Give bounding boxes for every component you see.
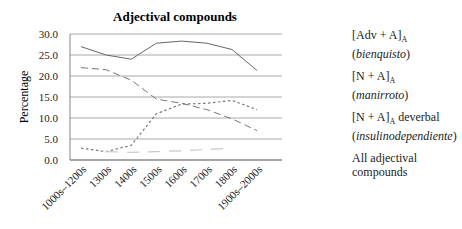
x-tick-label: 1700s (187, 163, 214, 190)
x-axis-ticks: 1000s–1200s1300s1400s1500s1600s1700s1800… (39, 163, 265, 213)
legend-item-n-a: [N + A]A (manirroto) (300, 69, 462, 102)
y-tick-label: 0.0 (44, 154, 58, 166)
y-tick-label: 10.0 (39, 112, 59, 124)
y-tick-label: 5.0 (44, 133, 58, 145)
x-tick-label: 1300s (86, 163, 113, 190)
x-tick-label: 1500s (137, 163, 164, 190)
chart-title: Adjectival compounds (113, 9, 237, 24)
y-tick-label: 20.0 (39, 70, 59, 82)
line-chart: Adjectival compounds Percentage 30.025.0… (0, 0, 300, 229)
series-line (81, 68, 257, 131)
series-line (81, 100, 257, 151)
y-tick-label: 30.0 (39, 28, 59, 40)
x-tick-label: 1000s–1200s (39, 163, 89, 213)
legend: [Adv + A]A (bienquisto) [N + A]A (manirr… (300, 28, 462, 187)
legend-item-all: All adjectival compounds (300, 151, 462, 179)
legend-item-n-a-deverbal: [N + A]A deverbal (insulinodependiente) (300, 110, 462, 143)
x-tick-label: 1400s (112, 163, 139, 190)
series-line (81, 41, 257, 70)
y-axis-label: Percentage (17, 71, 31, 124)
x-tick-label: 1600s (162, 163, 189, 190)
legend-item-adv-a: [Adv + A]A (bienquisto) (300, 28, 462, 61)
y-tick-label: 15.0 (39, 91, 59, 103)
series-line (106, 148, 232, 152)
y-axis-ticks: 30.025.020.015.010.05.00.0 (39, 28, 59, 166)
gridlines (70, 34, 282, 160)
y-tick-label: 25.0 (39, 49, 59, 61)
